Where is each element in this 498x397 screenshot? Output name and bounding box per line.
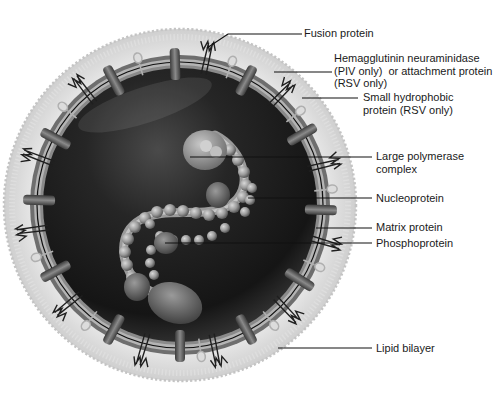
label-fusion-protein: Fusion protein (304, 27, 374, 40)
label-nucleoprotein: Nucleoprotein (376, 192, 444, 205)
label-large-polymerase-complex: Large polymerase complex (376, 150, 464, 175)
label-phosphoprotein: Phosphoprotein (376, 237, 453, 250)
polymerase-lobe-lower (124, 273, 150, 301)
polymerase-lobe-mid (206, 182, 230, 208)
label-matrix-protein: Matrix protein (376, 221, 443, 234)
label-small-hydrophobic-protein: Small hydrophobic protein (RSV only) (363, 91, 454, 116)
label-lipid-bilayer: Lipid bilayer (376, 342, 435, 355)
label-hemagglutinin-neuraminidase: Hemagglutinin neuraminidase (PIV only) o… (334, 52, 492, 90)
